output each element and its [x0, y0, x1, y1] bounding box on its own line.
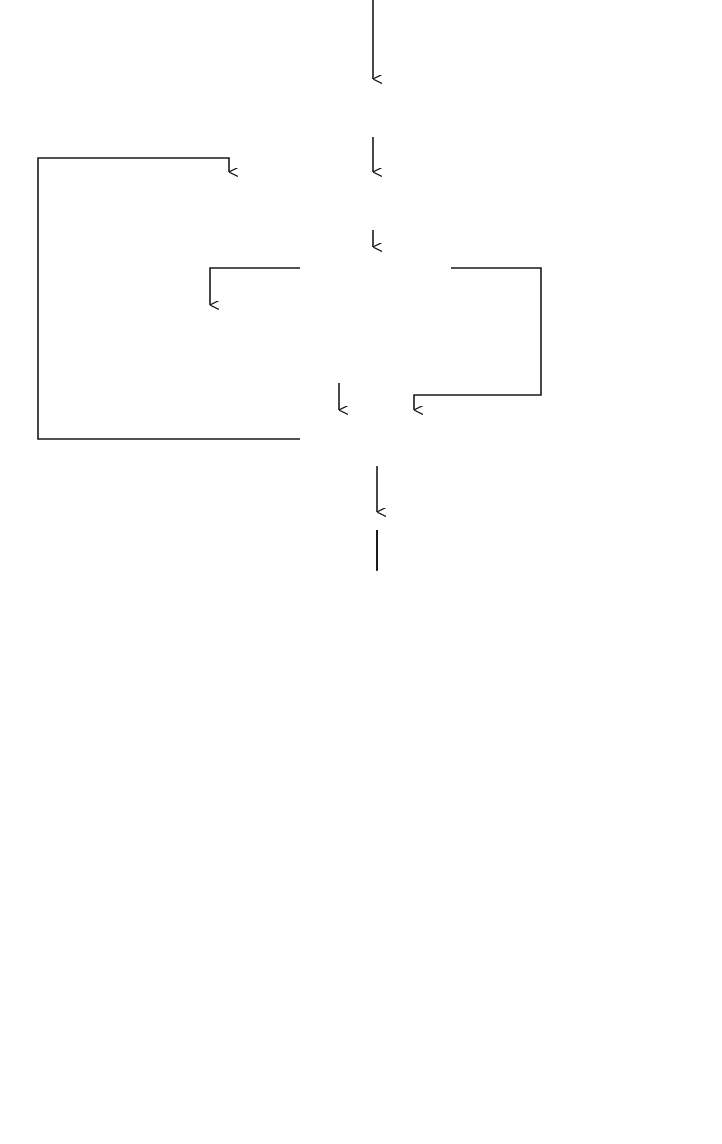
connector-lines — [0, 0, 722, 1144]
